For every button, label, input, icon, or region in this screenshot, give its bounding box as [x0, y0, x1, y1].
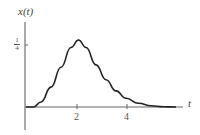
data-curve [26, 40, 176, 107]
y-tick-label-quarter: 1 4 [14, 37, 20, 52]
frac-denominator: 4 [15, 44, 19, 52]
chart-canvas [0, 0, 200, 135]
y-axis-label: x(t) [18, 5, 33, 17]
frac-numerator: 1 [15, 36, 19, 44]
x-tick-label-2: 2 [74, 111, 79, 122]
x-tick-label-4: 4 [124, 111, 129, 122]
x-axis-label: t [188, 97, 191, 109]
